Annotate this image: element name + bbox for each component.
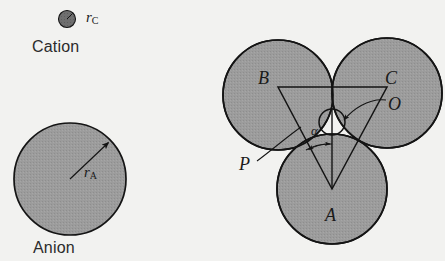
anion-radius-label: rA	[84, 165, 97, 181]
tangent-label-p: P	[239, 155, 250, 173]
vertex-label-b: B	[258, 69, 269, 87]
anion-caption: Anion	[33, 240, 75, 256]
vertex-label-a: A	[325, 206, 336, 224]
cation-radius-subscript: C	[92, 15, 99, 26]
reference-cation-glyph	[59, 11, 76, 28]
center-label-o: O	[388, 95, 401, 113]
cation-caption: Cation	[32, 39, 79, 55]
cation-radius-label: rC	[86, 10, 99, 26]
vertex-label-c: C	[385, 69, 397, 87]
anion-radius-subscript: A	[90, 170, 97, 181]
reference-anion-glyph	[14, 123, 126, 235]
angle-label-alpha: α	[311, 124, 318, 137]
figure-canvas: rC Cation rA Anion B C A O P α	[0, 0, 445, 261]
